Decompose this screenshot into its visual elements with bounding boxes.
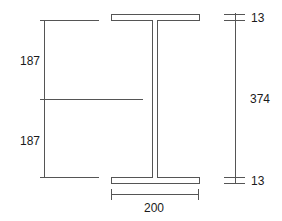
total-height-label: 374 [250, 92, 270, 106]
bottom-flange [112, 178, 200, 184]
lower-half-height-label: 187 [20, 134, 40, 148]
left-height-dimension: 187 187 [20, 20, 143, 178]
flange-width-dimension: 200 [111, 189, 199, 215]
top-flange-thickness-label: 13 [251, 11, 265, 25]
bottom-flange-thickness-label: 13 [251, 174, 265, 188]
i-beam-drawing: 187 187 13 374 13 200 [0, 0, 282, 221]
web [153, 21, 158, 178]
top-flange [112, 15, 200, 21]
upper-half-height-label: 187 [20, 54, 40, 68]
flange-width-label: 200 [144, 201, 164, 215]
right-height-dimension: 13 374 13 [224, 11, 270, 188]
